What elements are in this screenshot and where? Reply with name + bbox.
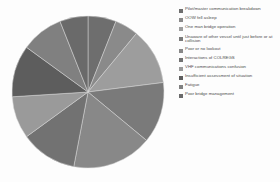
- legend-swatch-icon: [179, 37, 183, 41]
- legend-item[interactable]: One man bridge operation: [179, 25, 278, 31]
- legend-swatch-icon: [179, 58, 183, 62]
- legend-item[interactable]: Unaware of other vessel until just befor…: [179, 35, 278, 44]
- legend-item-label: Poor bridge management: [185, 92, 234, 96]
- legend-item-label: OOW fell asleep: [185, 16, 217, 20]
- chart-legend: Pilot/master communication breakdown OOW…: [179, 7, 278, 177]
- legend-item-label: VHF communications confusion: [185, 65, 246, 69]
- pie-slice-group: [12, 16, 164, 168]
- legend-item-label: Insufficient assessment of situation: [185, 74, 252, 78]
- legend-swatch-icon: [179, 85, 183, 89]
- legend-item-label: One man bridge operation: [185, 25, 235, 29]
- legend-swatch-icon: [179, 9, 183, 13]
- pie-chart-figure: Pilot/master communication breakdown OOW…: [0, 0, 280, 182]
- legend-item-label: Pilot/master communication breakdown: [185, 7, 261, 11]
- legend-swatch-icon: [179, 67, 183, 71]
- legend-item[interactable]: Interactions of COLREGS: [179, 56, 278, 62]
- legend-item-label: Unaware of other vessel until just befor…: [185, 35, 278, 44]
- legend-item[interactable]: Poor or no lookout: [179, 47, 278, 53]
- legend-item[interactable]: OOW fell asleep: [179, 16, 278, 22]
- pie-plot-area: [8, 12, 168, 172]
- legend-item-label: Poor or no lookout: [185, 47, 220, 51]
- legend-item[interactable]: Fatigue: [179, 83, 278, 89]
- legend-item-label: Interactions of COLREGS: [185, 56, 235, 60]
- legend-swatch-icon: [179, 94, 183, 98]
- pie-svg: [8, 12, 168, 172]
- legend-swatch-icon: [179, 18, 183, 22]
- legend-item[interactable]: Insufficient assessment of situation: [179, 74, 278, 80]
- legend-item[interactable]: VHF communications confusion: [179, 65, 278, 71]
- legend-swatch-icon: [179, 76, 183, 80]
- legend-item[interactable]: Pilot/master communication breakdown: [179, 7, 278, 13]
- legend-swatch-icon: [179, 49, 183, 53]
- legend-item[interactable]: Poor bridge management: [179, 92, 278, 98]
- legend-swatch-icon: [179, 27, 183, 31]
- legend-item-label: Fatigue: [185, 83, 199, 87]
